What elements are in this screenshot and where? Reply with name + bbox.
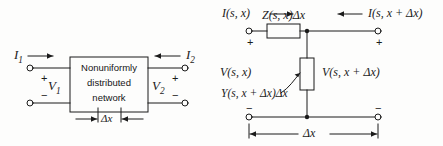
right-input-bottom-terminal [246, 114, 252, 120]
output-current-label: I2 [186, 48, 195, 65]
network-block-line-1: Nonuniformly [70, 63, 148, 73]
right-output-current-arrow-head [338, 11, 344, 17]
shunt-admittance-label: Y(s, x + Δx)Δx [221, 88, 288, 100]
series-impedance-element [267, 24, 300, 38]
delta-x-arrow-right-head [122, 116, 128, 121]
right-delta-x-label: Δx [303, 127, 315, 139]
output-top-terminal [182, 65, 188, 71]
output-plus-sign: + [172, 73, 178, 84]
input-current-label: I1 [14, 48, 23, 65]
network-block-line-2: distributed [70, 78, 148, 88]
input-voltage-label: V1 [48, 79, 61, 96]
right-delta-x-arrow-right-head [371, 131, 377, 136]
output-current-arrow-head [155, 53, 161, 59]
input-current-arrow-head [47, 53, 53, 59]
right-input-voltage-label: V(s, x) [220, 66, 251, 78]
right-output-current-label: I(s, x + Δx) [368, 7, 422, 19]
left-delta-x-label: Δx [101, 113, 112, 124]
right-input-top-terminal [246, 28, 252, 34]
right-input-plus-sign: + [247, 37, 253, 48]
right-output-plus-sign: + [376, 37, 382, 48]
output-voltage-label: V2 [152, 79, 165, 96]
output-minus-sign: − [172, 90, 178, 101]
right-input-current-label: I(s, x) [222, 7, 250, 19]
right-output-bottom-terminal [375, 114, 381, 120]
input-bottom-terminal [27, 100, 33, 106]
series-impedance-label: Z(s, x)Δx [262, 9, 305, 21]
delta-x-arrow-left-head [91, 116, 97, 121]
right-delta-x-arrow-left-head [250, 131, 256, 136]
shunt-admittance-element [300, 58, 314, 90]
input-plus-sign: + [41, 73, 47, 84]
input-minus-sign: − [41, 90, 47, 101]
input-top-terminal [27, 65, 33, 71]
right-output-voltage-label: V(s, x + Δx) [322, 66, 380, 78]
right-input-minus-sign: − [246, 103, 252, 114]
output-bottom-terminal [182, 100, 188, 106]
right-output-minus-sign: − [375, 103, 381, 114]
network-block-line-3: network [70, 93, 148, 103]
figure-canvas: I1 I2 + − V1 + − V2 Nonuniformly distrib… [0, 0, 443, 146]
right-output-top-terminal [375, 28, 381, 34]
